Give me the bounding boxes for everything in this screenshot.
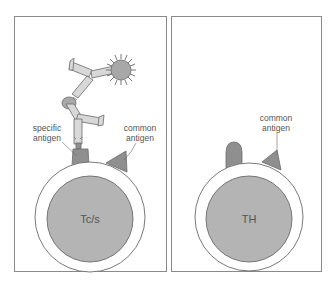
diagram-canvas: Tc/s specific antigen common antigen TH … (0, 0, 333, 303)
left-panel: Tc/s specific antigen common antigen (15, 17, 167, 273)
antibody-lower-fc (74, 119, 82, 144)
cell-label-tc-s: Tc/s (80, 213, 100, 225)
common-antigen-label-line2: antigen (126, 133, 154, 143)
specific-antigen-label-line2: antigen (33, 133, 61, 143)
tc-s-cell: Tc/s (35, 162, 145, 272)
common-antigen-label-line1: common (124, 123, 157, 133)
common-antigen-label-line2: antigen (262, 123, 290, 133)
common-antigen-label-line1: common (260, 113, 293, 123)
right-panel: TH common antigen (172, 17, 322, 272)
cell-label-th: TH (242, 213, 257, 225)
specific-antigen-label-line1: specific (33, 123, 62, 133)
th-cell: TH (195, 163, 303, 271)
